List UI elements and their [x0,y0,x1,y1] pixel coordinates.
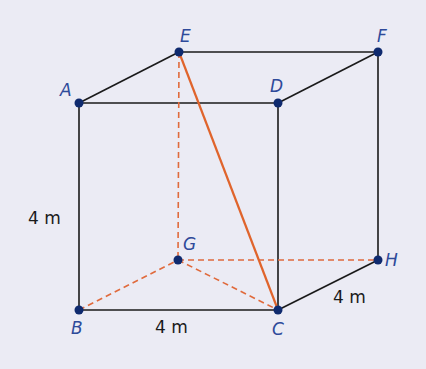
diagonal-ec [179,52,278,310]
vertex-d [274,99,283,108]
vertex-g [174,256,183,265]
dimension-depth: 4 m [333,287,366,307]
edge-gc [178,260,278,310]
vertex-b [75,306,84,315]
vertex-h [374,256,383,265]
edge-bg [79,260,178,310]
edge-df [278,52,378,103]
label-g: G [183,234,196,254]
label-e: E [180,26,191,46]
label-c: C [272,319,284,339]
vertex-a [75,99,84,108]
vertex-c [274,306,283,315]
dimension-width: 4 m [155,317,188,337]
label-b: B [71,318,83,338]
dimension-height: 4 m [28,208,61,228]
vertex-e [175,48,184,57]
edge-eg [178,52,179,260]
label-h: H [385,250,398,270]
vertex-f [374,48,383,57]
label-d: D [270,76,283,96]
cube-diagram: A E D F B G C H 4 m 4 m 4 m [0,0,426,369]
edge-ae [79,52,179,103]
label-a: A [59,80,72,100]
label-f: F [377,26,387,46]
